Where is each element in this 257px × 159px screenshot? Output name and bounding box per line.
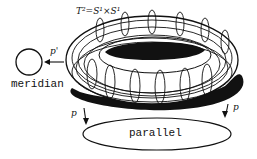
parallel-label: parallel: [129, 127, 182, 139]
projection-arrow-right-head: [222, 111, 228, 118]
projection-arrow-left-head: [83, 118, 89, 125]
meridian-arrow-head: [44, 59, 50, 65]
torus-title-label: T²=S¹×S¹: [76, 6, 120, 16]
meridian-circle: [16, 49, 42, 75]
projection-left-label: p: [71, 108, 77, 118]
projection-right-label: p: [233, 102, 239, 112]
projection-meridian-label: p': [50, 46, 58, 56]
meridian-label: meridian: [11, 78, 64, 90]
torus-outer: [66, 16, 238, 104]
